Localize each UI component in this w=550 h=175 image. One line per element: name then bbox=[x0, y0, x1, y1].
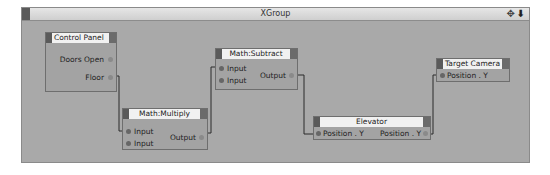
input-port-position-y: Position . Y bbox=[447, 71, 488, 80]
output-port: Output bbox=[170, 133, 196, 142]
port-dot-doors-open[interactable] bbox=[108, 57, 113, 62]
port-dot-floor[interactable] bbox=[108, 75, 113, 80]
node-target-camera[interactable]: Target Camera Position . Y bbox=[436, 58, 510, 82]
port-dot-input[interactable] bbox=[440, 73, 445, 78]
input-port-2: Input bbox=[134, 139, 153, 148]
node-math-subtract[interactable]: Math:Subtract Input Input Output bbox=[215, 48, 298, 90]
port-dot-output[interactable] bbox=[423, 131, 428, 136]
node-header[interactable]: Target Camera bbox=[437, 59, 509, 69]
port-dot-input-2[interactable] bbox=[126, 141, 131, 146]
input-port-position-y: Position . Y bbox=[323, 129, 364, 138]
node-title: Target Camera bbox=[444, 59, 501, 69]
output-port: Output bbox=[260, 71, 286, 80]
port-dot-output[interactable] bbox=[289, 73, 294, 78]
node-title: Math:Subtract bbox=[223, 49, 289, 59]
node-math-multiply[interactable]: Math:Multiply Input Input Output bbox=[122, 108, 208, 150]
node-title: Math:Multiply bbox=[130, 109, 199, 119]
node-control-panel[interactable]: Control Panel Doors Open Floor bbox=[45, 32, 117, 92]
port-dot-input-2[interactable] bbox=[219, 78, 224, 83]
port-dot-input-1[interactable] bbox=[126, 129, 131, 134]
output-port-position-y: Position . Y bbox=[380, 129, 421, 138]
input-port-1: Input bbox=[134, 127, 153, 136]
node-header[interactable]: Math:Multiply bbox=[123, 109, 207, 119]
output-port-doors-open: Doors Open bbox=[60, 55, 104, 64]
node-header[interactable]: Control Panel bbox=[46, 33, 116, 43]
node-elevator[interactable]: Elevator Position . Y Position . Y bbox=[313, 116, 431, 140]
node-header[interactable]: Math:Subtract bbox=[216, 49, 297, 59]
node-title: Elevator bbox=[321, 117, 422, 127]
port-dot-input-1[interactable] bbox=[219, 66, 224, 71]
node-title: Control Panel bbox=[53, 33, 108, 43]
input-port-2: Input bbox=[227, 76, 246, 85]
node-header[interactable]: Elevator bbox=[314, 117, 430, 127]
port-dot-output[interactable] bbox=[199, 135, 204, 140]
input-port-1: Input bbox=[227, 64, 246, 73]
output-port-floor: Floor bbox=[85, 73, 104, 82]
port-dot-input[interactable] bbox=[316, 131, 321, 136]
